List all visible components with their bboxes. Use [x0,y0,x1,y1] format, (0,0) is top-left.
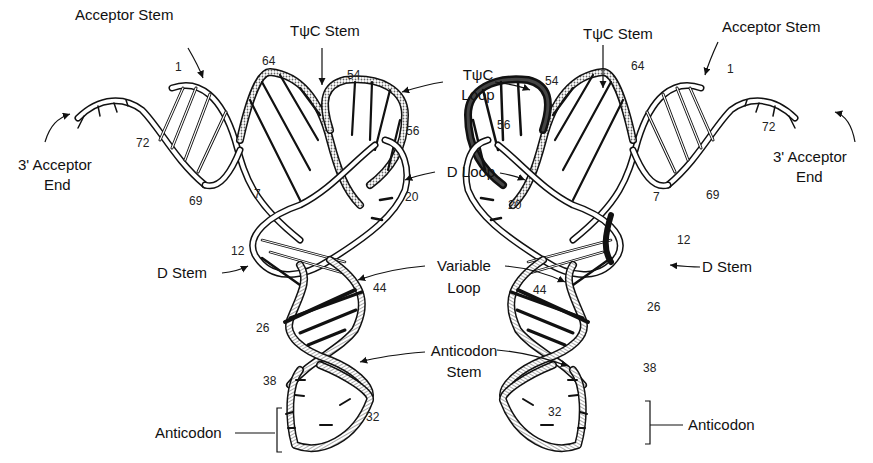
left-acceptor-end-label-line2: End [44,176,71,193]
right-residue-20: 20 [508,198,521,212]
tpsic-loop-label-line2: Loop [448,86,508,103]
left-residue-44: 44 [373,281,386,295]
variable-loop-label-line2: Loop [428,279,500,296]
right-residue-38: 38 [643,361,656,375]
left-tpsic-loop-arrow [402,82,443,92]
right-residue-72: 72 [762,120,775,134]
right-acceptor-stem-arrow [705,42,718,75]
left-d-stem-label: D Stem [157,264,207,281]
left-residue-69: 69 [189,194,202,208]
left-residue-12: 12 [231,244,244,258]
right-residue-69: 69 [706,188,719,202]
left-residue-38: 38 [263,374,276,388]
right-tpsic-stem-label: TψC Stem [583,25,653,42]
left-residue-56: 56 [406,124,419,138]
left-residue-20: 20 [405,190,418,204]
right-acceptor-stem-label: Acceptor Stem [722,18,820,35]
right-residue-44: 44 [533,283,546,297]
left-acceptor-end-label-line1: 3' Acceptor [18,156,92,173]
right-d-stem-label: D Stem [702,258,752,275]
right-residue-64: 64 [631,59,644,73]
right-residue-56: 56 [497,118,510,132]
right-residue-54: 54 [545,74,558,88]
left-acceptor-stem-arrow [188,48,203,78]
variable-loop-label-line1: Variable [428,257,500,274]
right-acceptor-end-label-line2: End [796,168,823,185]
right-anticodon-bracket [645,401,683,444]
left-variable-loop-arrow [358,266,425,280]
tpsic-loop-label-line1: TψC [448,66,508,83]
left-anticodon-bracket [235,408,282,452]
left-residue-72: 72 [136,136,149,150]
left-residue-1: 1 [175,60,182,74]
d-loop-label: D Loop [440,163,502,180]
left-anticodon-stem-arrow [360,352,425,362]
trna-drawing [0,0,873,463]
left-tpsic-stem-label: TψC Stem [290,22,360,39]
trna-structure-figure: Acceptor Stem TψC Stem 3' Acceptor End D… [0,0,873,463]
right-acceptor-end-label-line1: 3' Acceptor [773,148,847,165]
right-residue-7: 7 [653,190,660,204]
right-anticodon-label: Anticodon [688,416,755,433]
right-d-stem-arrow [670,265,700,267]
anticodon-stem-label-line2: Stem [424,363,504,380]
left-acceptor-end-arrow [45,114,70,142]
anticodon-stem-label-line1: Anticodon [424,342,504,359]
right-residue-26: 26 [647,300,660,314]
left-residue-26: 26 [256,321,269,335]
right-tpsic-stem [513,72,633,205]
leader-lines [45,42,855,452]
left-tpsic-stem [240,72,360,205]
right-residue-32: 32 [548,405,561,419]
left-d-stem-arrow [222,266,248,273]
right-residue-1: 1 [727,62,734,76]
left-anticodon-label: Anticodon [155,424,222,441]
left-residue-7: 7 [254,187,261,201]
right-d-loop-arrow [500,173,525,180]
left-residue-54: 54 [347,68,360,82]
right-acceptor-end-arrow [835,112,855,142]
left-acceptor-stem-label: Acceptor Stem [75,6,173,23]
left-trna-molecule [78,72,407,448]
left-residue-32: 32 [366,410,379,424]
right-residue-12: 12 [677,233,690,247]
left-residue-64: 64 [262,54,275,68]
